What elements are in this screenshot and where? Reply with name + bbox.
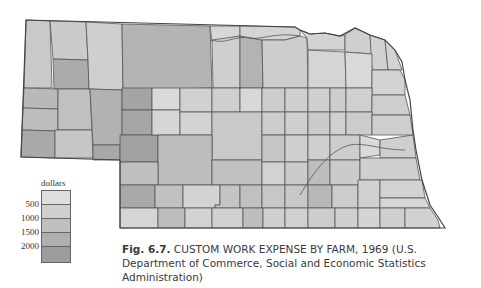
legend-swatch	[42, 247, 70, 262]
county	[380, 198, 430, 208]
county	[22, 108, 58, 131]
legend-tick: 1500	[15, 227, 39, 237]
county	[380, 208, 405, 228]
county	[285, 162, 308, 185]
county	[308, 185, 332, 208]
county	[212, 112, 262, 160]
nebraska-county-map	[0, 0, 481, 240]
figure-caption: Fig. 6.7. CUSTOM WORK EXPENSE BY FARM, 1…	[122, 242, 477, 284]
county	[243, 208, 263, 228]
county	[330, 88, 346, 112]
county	[21, 130, 55, 158]
county	[358, 180, 380, 208]
county	[285, 208, 308, 228]
county	[285, 88, 308, 112]
county	[185, 208, 212, 228]
county	[120, 208, 158, 228]
legend-scale	[41, 190, 71, 263]
county	[158, 135, 212, 185]
county	[122, 110, 152, 135]
county	[358, 208, 380, 228]
county	[58, 89, 92, 130]
county	[50, 21, 88, 60]
county	[405, 208, 440, 228]
legend-tick: 500	[15, 199, 39, 209]
county	[308, 88, 330, 112]
county	[90, 89, 122, 145]
county	[240, 36, 263, 88]
county	[120, 162, 158, 185]
county	[120, 135, 158, 162]
county	[212, 208, 243, 228]
county	[308, 112, 330, 135]
county	[183, 185, 220, 208]
county	[330, 135, 360, 160]
county	[120, 185, 155, 208]
county	[346, 112, 372, 135]
county	[308, 135, 330, 160]
county	[152, 88, 180, 110]
county	[308, 50, 346, 88]
county	[212, 160, 262, 185]
county	[262, 112, 285, 135]
county	[24, 20, 52, 88]
county	[372, 95, 410, 115]
county	[152, 110, 180, 135]
county	[262, 36, 308, 88]
figure-label: Fig. 6.7.	[122, 243, 171, 255]
county	[360, 135, 380, 158]
county	[263, 208, 285, 228]
county	[86, 22, 123, 90]
county	[240, 185, 262, 208]
county	[345, 52, 372, 88]
legend-tick: 2000	[15, 241, 39, 251]
county	[212, 88, 240, 112]
county	[360, 158, 420, 180]
county	[262, 185, 285, 208]
county	[332, 185, 358, 208]
county	[93, 145, 120, 160]
county	[23, 88, 58, 109]
county	[285, 112, 308, 135]
county	[385, 40, 402, 70]
county	[330, 112, 346, 135]
county	[335, 208, 358, 228]
county	[346, 88, 372, 112]
county	[380, 135, 416, 158]
legend-title: dollars	[41, 178, 66, 188]
county	[155, 185, 183, 208]
county	[180, 112, 212, 135]
county	[158, 208, 185, 228]
county	[240, 88, 262, 112]
county	[55, 130, 93, 158]
county	[285, 185, 308, 208]
county	[262, 88, 285, 112]
legend-swatch	[42, 191, 70, 205]
legend-swatch	[42, 205, 70, 219]
legend-swatch	[42, 219, 70, 233]
county	[212, 36, 240, 88]
county	[262, 135, 285, 162]
county	[122, 88, 152, 110]
county	[285, 135, 308, 162]
county	[308, 160, 330, 185]
county	[122, 24, 212, 90]
county	[372, 70, 405, 95]
legend-tick: 1000	[15, 213, 39, 223]
legend-swatch	[42, 233, 70, 247]
county	[380, 180, 425, 198]
county	[308, 208, 335, 228]
county	[330, 160, 360, 185]
county	[180, 88, 212, 112]
county	[53, 59, 89, 89]
county	[262, 162, 285, 185]
county	[372, 115, 413, 135]
county	[345, 28, 372, 54]
